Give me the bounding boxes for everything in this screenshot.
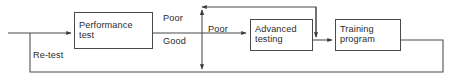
edge-label-poor-upper: Poor <box>163 14 183 23</box>
edge-label-poor-advanced: Poor <box>208 25 228 34</box>
node-advanced-testing[interactable]: Advanced testing <box>250 19 313 51</box>
edge-label-re-test: Re-test <box>33 51 63 60</box>
node-performance-test[interactable]: Performance test <box>74 12 153 49</box>
node-performance-test-line2: test <box>79 31 94 41</box>
node-advanced-testing-line2: testing <box>255 35 283 45</box>
flowchart-diagram: Performance test Advanced testing Traini… <box>0 0 449 82</box>
edge-label-good: Good <box>163 37 186 46</box>
node-training-program[interactable]: Training program <box>335 19 401 51</box>
node-training-program-line2: program <box>340 35 375 45</box>
